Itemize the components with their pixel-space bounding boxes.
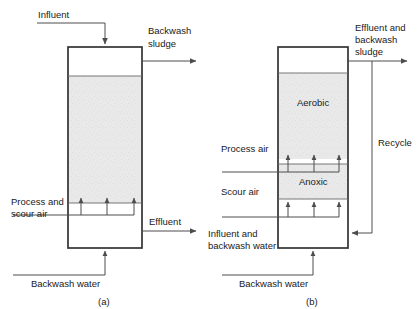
caption-a: (a) (98, 296, 110, 307)
caption-b: (b) (306, 296, 318, 307)
label-influent-a: Influent (38, 9, 69, 21)
label-process-scour-air-a-line1: Process and (11, 196, 64, 208)
label-backwash-sludge-a-line2: sludge (148, 38, 176, 50)
label-influent-backwash-water-b-line2: backwash water (208, 240, 276, 252)
label-anoxic-b: Anoxic (299, 176, 328, 188)
label-scour-air-b: Scour air (221, 186, 259, 198)
label-backwash-sludge-a-line1: Backwash (148, 25, 191, 37)
figure-container: Influent Backwash sludge Process and sco… (0, 0, 418, 309)
media-bed-a (68, 76, 142, 203)
reactor-a (13, 23, 196, 275)
backwash-water-flow-b (222, 251, 313, 275)
backwash-water-flow-a (13, 251, 105, 275)
label-process-scour-air-a-line2: scour air (11, 208, 47, 220)
label-process-air-b: Process air (221, 143, 269, 155)
scour-air-flow-b (222, 202, 339, 217)
label-backwash-water-a: Backwash water (31, 278, 100, 290)
media-bed-aerobic-b (278, 73, 348, 159)
label-effluent-backwash-sludge-b-line1: Effluent and (355, 22, 406, 34)
label-influent-backwash-water-b-line1: Influent and (208, 228, 258, 240)
label-recycle-b: Recycle (378, 137, 412, 149)
recycle-flow-b (352, 61, 372, 233)
label-effluent-backwash-sludge-b-line2: backwash (355, 34, 397, 46)
label-aerobic-b: Aerobic (297, 97, 329, 109)
label-backwash-water-b: Backwash water (239, 278, 308, 290)
influent-flow-a (37, 23, 105, 44)
label-effluent-backwash-sludge-b-line3: sludge (355, 46, 383, 58)
label-effluent-a: Effluent (149, 216, 181, 228)
